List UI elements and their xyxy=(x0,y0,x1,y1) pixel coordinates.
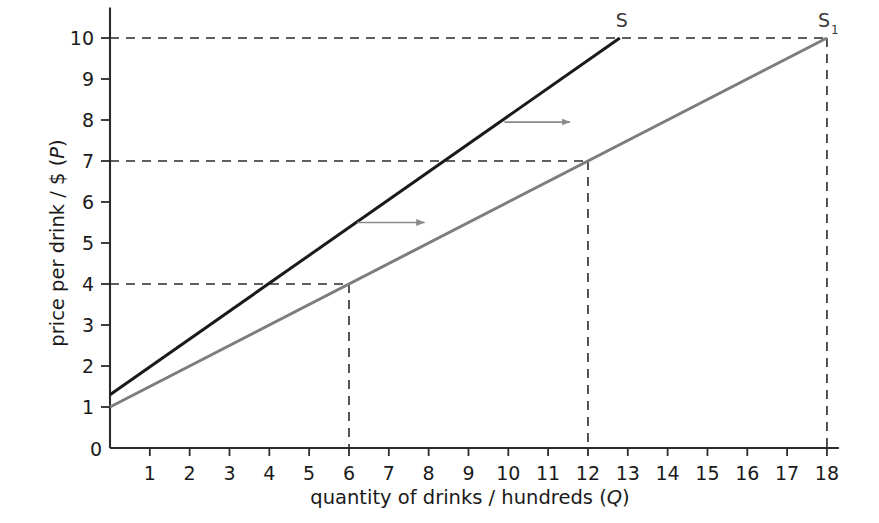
y-tick-label: 8 xyxy=(82,109,94,131)
x-tick-label: 3 xyxy=(223,462,235,484)
x-tick-label: 8 xyxy=(423,462,435,484)
x-tick-label: 1 xyxy=(144,462,156,484)
x-axis-title-variable: Q xyxy=(607,486,622,509)
x-tick-label: 4 xyxy=(263,462,275,484)
x-axis-title-main: quantity of drinks / hundreds ( xyxy=(310,486,606,509)
x-tick-label: 12 xyxy=(576,462,600,484)
y-tick-label: 3 xyxy=(82,314,94,336)
supply-curve-s-label: S xyxy=(616,9,628,31)
y-tick-label: 1 xyxy=(82,396,94,418)
x-tick-label: 14 xyxy=(656,462,680,484)
x-tick-label: 15 xyxy=(695,462,719,484)
x-tick-label: 18 xyxy=(815,462,839,484)
x-axis-title: quantity of drinks / hundreds (Q) xyxy=(310,486,629,509)
y-axis-title-variable: P xyxy=(46,147,69,159)
y-tick-label: 2 xyxy=(82,355,94,377)
x-tick-label: 2 xyxy=(184,462,196,484)
supply-shift-chart: 123456789101112131415161718 12345678910 … xyxy=(0,0,879,523)
x-tick-label: 16 xyxy=(735,462,759,484)
supply-curve-s1-label: S xyxy=(818,9,830,31)
x-axis-title-close: ) xyxy=(622,486,630,509)
y-axis-title-close: ) xyxy=(46,139,69,147)
y-tick-label: 9 xyxy=(82,68,94,90)
x-tick-label: 7 xyxy=(383,462,395,484)
supply-curve-s1-subscript: 1 xyxy=(831,23,839,37)
y-axis-title-main: price per drink / $ ( xyxy=(46,159,69,347)
y-tick-label: 5 xyxy=(82,232,94,254)
y-tick-label: 6 xyxy=(82,191,94,213)
x-tick-label: 13 xyxy=(616,462,640,484)
y-tick-label: 4 xyxy=(82,273,94,295)
y-tick-label: 7 xyxy=(82,150,94,172)
x-tick-label: 6 xyxy=(343,462,355,484)
x-tick-label: 10 xyxy=(496,462,520,484)
supply-curve-figure: 123456789101112131415161718 12345678910 … xyxy=(0,0,879,523)
origin-tick-label: 0 xyxy=(90,438,102,460)
x-tick-label: 9 xyxy=(462,462,474,484)
x-tick-label: 11 xyxy=(536,462,560,484)
y-tick-label: 10 xyxy=(70,27,94,49)
x-tick-label: 5 xyxy=(303,462,315,484)
x-tick-label: 17 xyxy=(775,462,799,484)
y-axis-title: price per drink / $ (P) xyxy=(46,139,69,346)
